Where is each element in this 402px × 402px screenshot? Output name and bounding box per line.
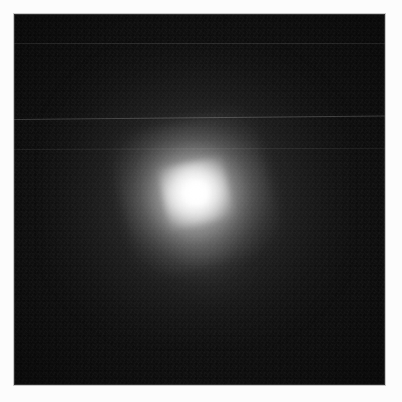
- image-viewport: [0, 0, 402, 402]
- detector-noise-layer-3: [14, 14, 385, 385]
- astronomical-image-frame[interactable]: [14, 14, 385, 385]
